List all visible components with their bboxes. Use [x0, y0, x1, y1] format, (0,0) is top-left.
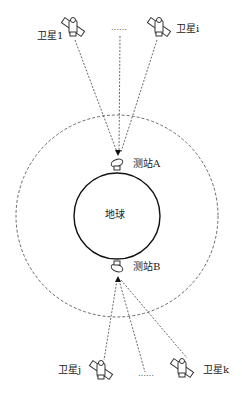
ellipsis-bottom: ……: [138, 370, 154, 378]
station-a-dish-icon: [110, 158, 124, 170]
satellite-1-label: 卫星1: [37, 31, 63, 41]
ellipsis-top: ……: [111, 24, 127, 32]
satellite-k-label: 卫星k: [203, 365, 229, 375]
earth-label: 地球: [105, 210, 125, 220]
station-b-label: 测站B: [133, 262, 160, 272]
diagram-canvas: 卫星1 卫星i …… 测站A 地球 测站B 卫星j …… 卫星k: [0, 0, 242, 399]
satellite-k-icon: [170, 359, 193, 378]
satellite-1-icon: [61, 18, 84, 37]
station-b-dish-icon: [110, 261, 124, 273]
satellite-i-label: 卫星i: [176, 24, 199, 34]
station-a-label: 测站A: [133, 159, 160, 169]
satellite-j-label: 卫星j: [58, 365, 81, 375]
diagram-graphics: [0, 0, 242, 399]
satellite-i-icon: [147, 18, 170, 37]
satellite-j-icon: [89, 361, 112, 380]
